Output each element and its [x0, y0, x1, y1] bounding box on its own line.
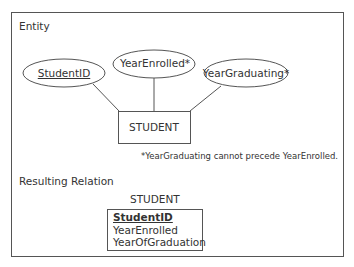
relation-column-yearofgraduation: YearOfGraduation — [113, 236, 202, 249]
relation-table: StudentID YearEnrolled YearOfGraduation — [107, 209, 203, 251]
connector-studentid — [93, 84, 119, 111]
entity-heading: Entity — [19, 20, 50, 32]
relation-name: STUDENT — [130, 193, 180, 205]
relation-heading: Resulting Relation — [19, 175, 114, 187]
attribute-yeargraduating: YearGraduating* — [203, 67, 289, 79]
footnote: *YearGraduating cannot precede YearEnrol… — [141, 151, 338, 161]
connector-yeargraduating — [190, 86, 221, 111]
relation-column-studentid: StudentID — [113, 211, 202, 224]
relation-column-yearenrolled: YearEnrolled — [113, 224, 202, 237]
attribute-studentid: StudentID — [38, 67, 91, 79]
entity-name: STUDENT — [129, 121, 179, 133]
attribute-yearenrolled: YearEnrolled* — [120, 57, 190, 69]
